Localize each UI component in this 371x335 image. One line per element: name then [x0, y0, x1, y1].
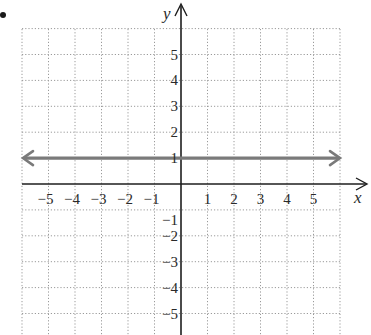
bullet-marker-icon — [0, 12, 6, 18]
coordinate-plane: −5−4−3−2−112345−5−4−3−2−112345 x y — [0, 0, 371, 335]
y-tick-label: −5 — [162, 306, 178, 322]
x-tick-label: 5 — [310, 191, 318, 207]
y-tick-label: 4 — [171, 72, 179, 88]
y-tick-label: 1 — [171, 150, 179, 166]
x-tick-label: −2 — [117, 191, 133, 207]
y-tick-label: 5 — [171, 47, 179, 63]
x-tick-label: 4 — [283, 191, 291, 207]
x-tick-label: 2 — [230, 191, 238, 207]
x-tick-label: −4 — [64, 191, 80, 207]
x-axis-label: x — [353, 188, 362, 207]
y-tick-label: −2 — [162, 228, 178, 244]
x-tick-label: −3 — [91, 191, 107, 207]
y-tick-label: 2 — [171, 124, 179, 140]
y-tick-label: −3 — [162, 254, 178, 270]
y-tick-label: −4 — [162, 280, 178, 296]
y-tick-label: −1 — [162, 212, 178, 228]
x-tick-label: 1 — [204, 191, 212, 207]
x-tick-label: −5 — [38, 191, 54, 207]
x-tick-label: 3 — [257, 191, 265, 207]
axes — [22, 4, 367, 335]
x-tick-label: −1 — [144, 191, 160, 207]
y-axis-label: y — [161, 4, 171, 23]
y-tick-label: 3 — [171, 98, 179, 114]
